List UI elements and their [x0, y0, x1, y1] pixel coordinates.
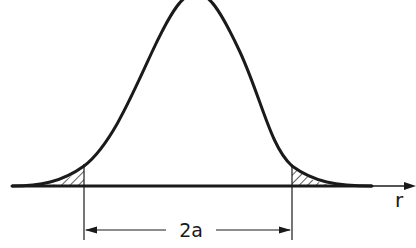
dimension-arrow-left-icon — [85, 227, 97, 234]
dimension-arrow-right-icon — [279, 227, 291, 234]
r-axis-label: r — [395, 188, 404, 212]
dimension-label: 2a — [179, 219, 203, 241]
gaussian-diagram: 2a r — [0, 0, 416, 248]
r-axis-arrowhead-icon — [404, 182, 416, 190]
diagram-canvas: 2a r — [0, 0, 416, 248]
gaussian-curve — [12, 0, 372, 186]
